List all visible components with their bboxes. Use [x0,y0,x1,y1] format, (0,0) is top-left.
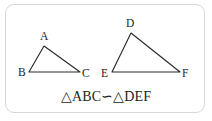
vertex-label-b: B [18,66,26,78]
triangle-def-outline [112,33,180,72]
vertex-label-f: F [182,67,188,79]
triangle-abc: A B C [18,30,90,79]
similarity-caption: △ABC∽△DEF [61,89,151,104]
vertex-label-d: D [126,17,134,29]
triangle-def: D E F [101,17,188,79]
vertex-label-c: C [82,67,90,79]
similar-triangles-figure: A B C D E F △ABC∽△DEF [0,0,212,121]
vertex-label-e: E [101,67,108,79]
geometry-canvas: A B C D E F △ABC∽△DEF [0,0,212,121]
triangle-abc-outline [29,46,80,72]
vertex-label-a: A [40,30,49,42]
